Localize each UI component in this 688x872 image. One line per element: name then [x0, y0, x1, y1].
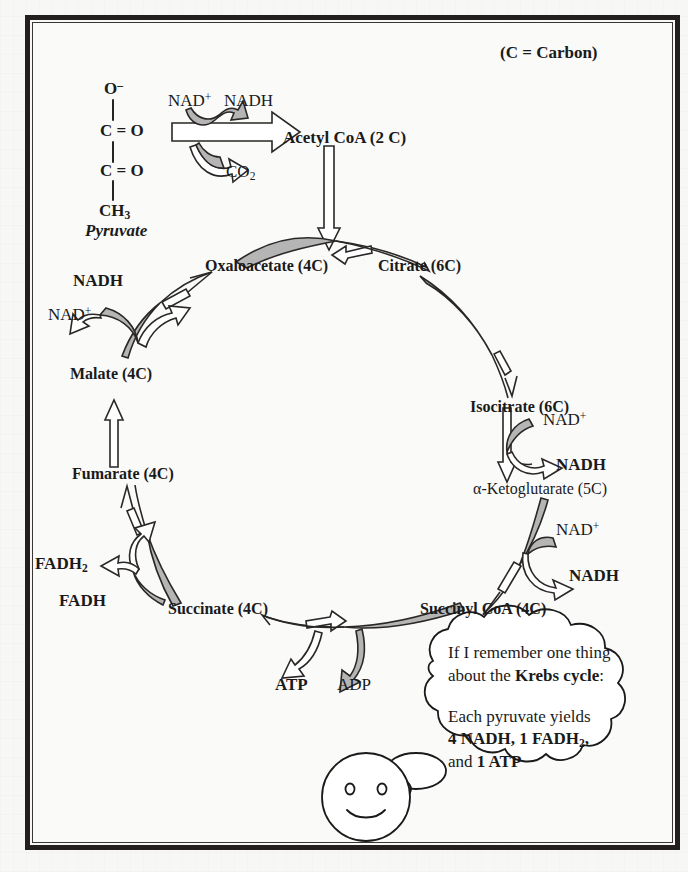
fadh2-label: FADH2 [35, 555, 88, 574]
pyruvate-atom-row3: C = O [100, 162, 144, 179]
nadh-label-ketoglutarate-step: NADH [569, 567, 619, 584]
pyruvate-atom-row4: CH3 [99, 202, 130, 221]
nadh-label-top: NADH [224, 92, 273, 109]
node-label-acetyl-coa: Acetyl CoA (2 C) [283, 129, 406, 146]
bubble-line-3: Each pyruvate yields [448, 708, 591, 725]
atp-label: ATP [275, 676, 308, 693]
succinate-to-fumarate-arrow [121, 485, 181, 606]
node-label-succinyl-coa: Succinyl CoA (4C) [420, 601, 546, 617]
bubble-line-5: and 1 ATP [448, 753, 521, 770]
nad-plus-label-isocitrate-step: NAD+ [543, 411, 586, 428]
bubble-line-2-suffix: : [599, 666, 604, 685]
bubble-line-2-prefix: about the [448, 666, 515, 685]
bubble-line-5-prefix: and [448, 752, 477, 771]
bubble-one-atp-bold: 1 ATP [477, 752, 522, 771]
node-label-fumarate: Fumarate (4C) [72, 466, 174, 482]
nad-plus-label-ketoglutarate-step: NAD+ [556, 521, 599, 538]
node-label-citrate: Citrate (6C) [378, 258, 461, 274]
nadh-label-isocitrate-step: NADH [556, 456, 606, 473]
node-label-succinate: Succinate (4C) [168, 601, 268, 617]
legend-note: (C = Carbon) [500, 44, 598, 61]
nadh-label-malate-step: NADH [73, 272, 123, 289]
pyruvate-caption: Pyruvate [85, 222, 147, 239]
node-label-alpha-ketoglutarate: α-Ketoglutarate (5C) [473, 481, 607, 497]
figure-page: .ol { stroke:#2a2726; stroke-width:1.6; … [0, 0, 688, 872]
bubble-line-4: 4 NADH, 1 FADH2, [448, 730, 589, 749]
ketoglutarate-to-succinylcoa-arrow [483, 498, 548, 614]
acetylcoa-down-arrow [318, 146, 340, 250]
node-label-malate: Malate (4C) [70, 366, 152, 382]
node-label-oxaloacetate: Oxaloacetate (4C) [205, 258, 328, 274]
fumarate-to-malate-arrow [105, 400, 123, 467]
adp-label: ADP [337, 676, 371, 693]
smiley-face [322, 753, 410, 841]
bubble-line-1: If I remember one thing [448, 644, 610, 661]
nad-plus-label-top: NAD+ [168, 92, 211, 109]
co2-label: CO2 [226, 163, 255, 182]
pyruvate-atom-o-minus: O– [104, 80, 123, 97]
citrate-to-isocitrate-arrow [420, 276, 517, 398]
nad-nadh-curved-arrow-ketoglutarate [523, 537, 573, 600]
bubble-line-2: about the Krebs cycle: [448, 667, 604, 684]
pyruvate-atom-row2: C = O [100, 122, 144, 139]
nad-plus-label-malate-step: NAD+ [48, 306, 91, 323]
bubble-krebs-cycle-bold: Krebs cycle [515, 666, 599, 685]
fadh-label: FADH [59, 592, 106, 609]
